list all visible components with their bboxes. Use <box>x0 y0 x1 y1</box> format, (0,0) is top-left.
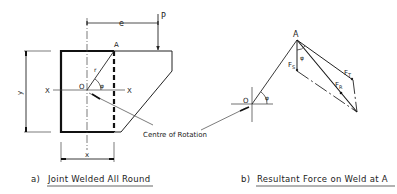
label-o-point-b: O <box>243 97 249 105</box>
figure-a-joint: e P A r O φ X X y x Centre of Rotation a… <box>16 12 207 186</box>
label-ft: FT <box>344 69 352 78</box>
figure-b-resultant: A O φ φ FS FT FR b) Resultant Force on W… <box>201 30 395 186</box>
label-a-point: A <box>114 41 119 49</box>
centre-leader-a-bold <box>92 94 100 99</box>
label-a-point-b: A <box>293 30 299 39</box>
label-x-dim: x <box>85 151 89 159</box>
label-phi-a: φ <box>100 82 104 90</box>
caption-a-prefix: a) <box>31 174 40 184</box>
label-x-axis-right: X <box>127 87 132 95</box>
label-y-dim: y <box>16 91 24 95</box>
label-e: e <box>119 19 124 28</box>
caption-b: Resultant Force on Weld at A <box>257 174 388 184</box>
caption-b-prefix: b) <box>241 174 250 184</box>
centre-leader-b-bold <box>240 107 249 111</box>
radius-line-b <box>252 40 297 104</box>
label-r: r <box>94 66 97 73</box>
fr-arrowhead <box>340 92 343 95</box>
label-fs: FS <box>288 61 295 70</box>
label-fr: FR <box>335 81 343 90</box>
centre-leader-b <box>201 108 246 130</box>
label-phi-b-o: φ <box>265 94 269 102</box>
weld-diagram: e P A r O φ X X y x Centre of Rotation a… <box>0 0 397 194</box>
centre-of-rotation-label: Centre of Rotation <box>143 131 207 139</box>
caption-a: Joint Welded All Round <box>47 174 150 184</box>
label-o-point: O <box>79 83 85 91</box>
label-x-axis-left: X <box>45 87 50 95</box>
fs-arrowhead <box>296 69 298 71</box>
ft-arrowhead <box>351 78 353 80</box>
label-phi-b-a: φ <box>300 54 304 62</box>
label-p: P <box>161 12 166 21</box>
